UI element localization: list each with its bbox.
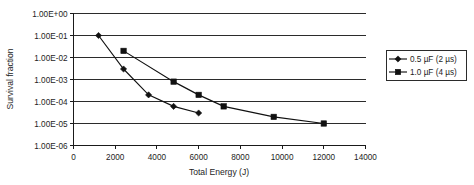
data-point-square-marker [196, 92, 201, 97]
x-tick-label: 2000 [106, 153, 125, 162]
y-tick-label: 1.00E-01 [34, 32, 68, 41]
x-axis [74, 146, 366, 150]
x-tick-label: 0 [71, 153, 76, 162]
y-axis [70, 14, 74, 146]
y-tick-labels: 1.00E+001.00E-011.00E-021.00E-031.00E-04… [32, 10, 68, 151]
y-tick-label: 1.00E+00 [32, 10, 68, 19]
data-point-diamond-marker [196, 110, 202, 116]
data-point-square-marker [221, 104, 226, 109]
y-tick-label: 1.00E-03 [34, 76, 68, 85]
x-tick-label: 8000 [231, 153, 250, 162]
y-tick-label: 1.00E-06 [34, 142, 68, 151]
y-tick-label: 1.00E-05 [34, 120, 68, 129]
legend: 0.5 µF (2 µs)1.0 µF (4 µs) [386, 50, 466, 80]
x-tick-label: 10000 [271, 153, 294, 162]
survival-fraction-line-chart: 1.00E+001.00E-011.00E-021.00E-031.00E-04… [0, 0, 474, 185]
y-tick-label: 1.00E-04 [34, 98, 68, 107]
data-point-diamond-marker [171, 103, 177, 109]
legend-item-label: 1.0 µF (4 µs) [410, 68, 457, 77]
y-tick-label: 1.00E-02 [34, 54, 68, 63]
y-axis-title: Survival fraction [5, 48, 15, 109]
x-tick-label: 12000 [312, 153, 335, 162]
x-tick-label: 4000 [148, 153, 167, 162]
data-point-square-marker [321, 121, 326, 126]
data-point-square-marker [395, 69, 400, 74]
data-series-2 [121, 48, 327, 126]
data-point-square-marker [121, 48, 126, 53]
data-series-1 [95, 32, 201, 116]
x-axis-title: Total Energy (J) [189, 167, 249, 177]
x-tick-label: 6000 [190, 153, 209, 162]
x-tick-label: 14000 [354, 153, 377, 162]
legend-item-label: 0.5 µF (2 µs) [410, 55, 457, 64]
data-point-square-marker [271, 114, 276, 119]
series-line [124, 51, 324, 124]
data-point-square-marker [171, 79, 176, 84]
x-tick-labels: 02000400060008000100001200014000 [71, 153, 377, 162]
chart-figure: 1.00E+001.00E-011.00E-021.00E-031.00E-04… [0, 0, 474, 185]
